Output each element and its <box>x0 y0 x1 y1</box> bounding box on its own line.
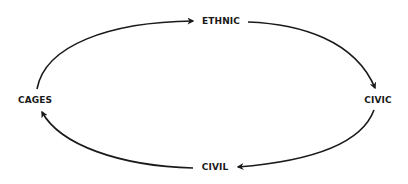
node-ethnic: ETHNIC <box>202 17 240 26</box>
node-civic: CIVIC <box>364 96 391 105</box>
node-civil: CIVIL <box>202 163 229 172</box>
cycle-arrows <box>0 0 408 184</box>
arrow-civic-to-civil <box>238 110 374 167</box>
arrow-cages-to-ethnic <box>37 21 193 89</box>
arrow-ethnic-to-civic <box>248 22 375 88</box>
arrow-civil-to-cages <box>42 112 193 168</box>
node-cages: CAGES <box>18 96 52 105</box>
